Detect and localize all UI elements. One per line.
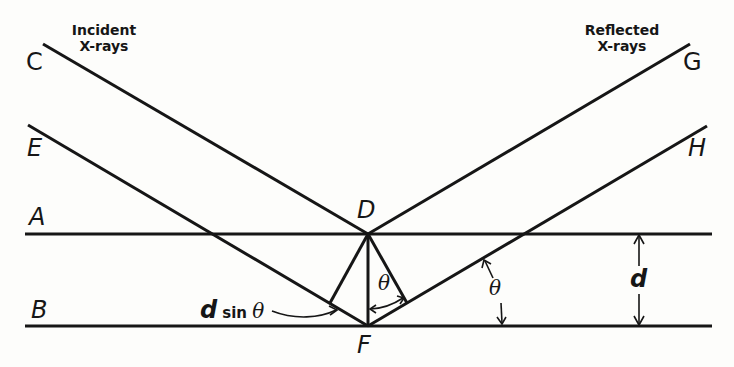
- theta-label-F: θ: [378, 271, 390, 295]
- perp-left: [330, 234, 368, 303]
- reflected-caption-line1: Reflected: [580, 22, 664, 38]
- dsin-d: d: [200, 296, 217, 324]
- reflected-caption-line2: X-rays: [580, 38, 664, 54]
- point-F-label: F: [357, 331, 371, 359]
- point-A-label: A: [29, 203, 45, 231]
- ray-CD: [43, 44, 368, 234]
- point-B-label: B: [31, 296, 47, 324]
- dsin-theta: θ: [252, 299, 264, 323]
- theta-label-plane: θ: [489, 276, 501, 300]
- path-difference-label: d sin θ: [200, 296, 264, 324]
- point-G-label: G: [683, 48, 702, 76]
- bragg-diagram: [0, 0, 734, 367]
- ray-FH: [368, 126, 707, 326]
- point-H-label: H: [688, 134, 706, 162]
- dsin-sin: sin: [222, 304, 247, 322]
- reflected-caption: Reflected X-rays: [580, 22, 664, 54]
- point-E-label: E: [27, 134, 42, 162]
- incident-caption: Incident X-rays: [64, 22, 144, 54]
- point-D-label: D: [357, 196, 375, 224]
- point-C-label: C: [26, 48, 43, 76]
- incident-caption-line1: Incident: [64, 22, 144, 38]
- incident-caption-line2: X-rays: [64, 38, 144, 54]
- dsin-leader-arrow: [272, 310, 336, 317]
- ray-DG: [368, 44, 690, 234]
- ray-EF: [28, 125, 368, 326]
- spacing-d-label: d: [630, 265, 647, 293]
